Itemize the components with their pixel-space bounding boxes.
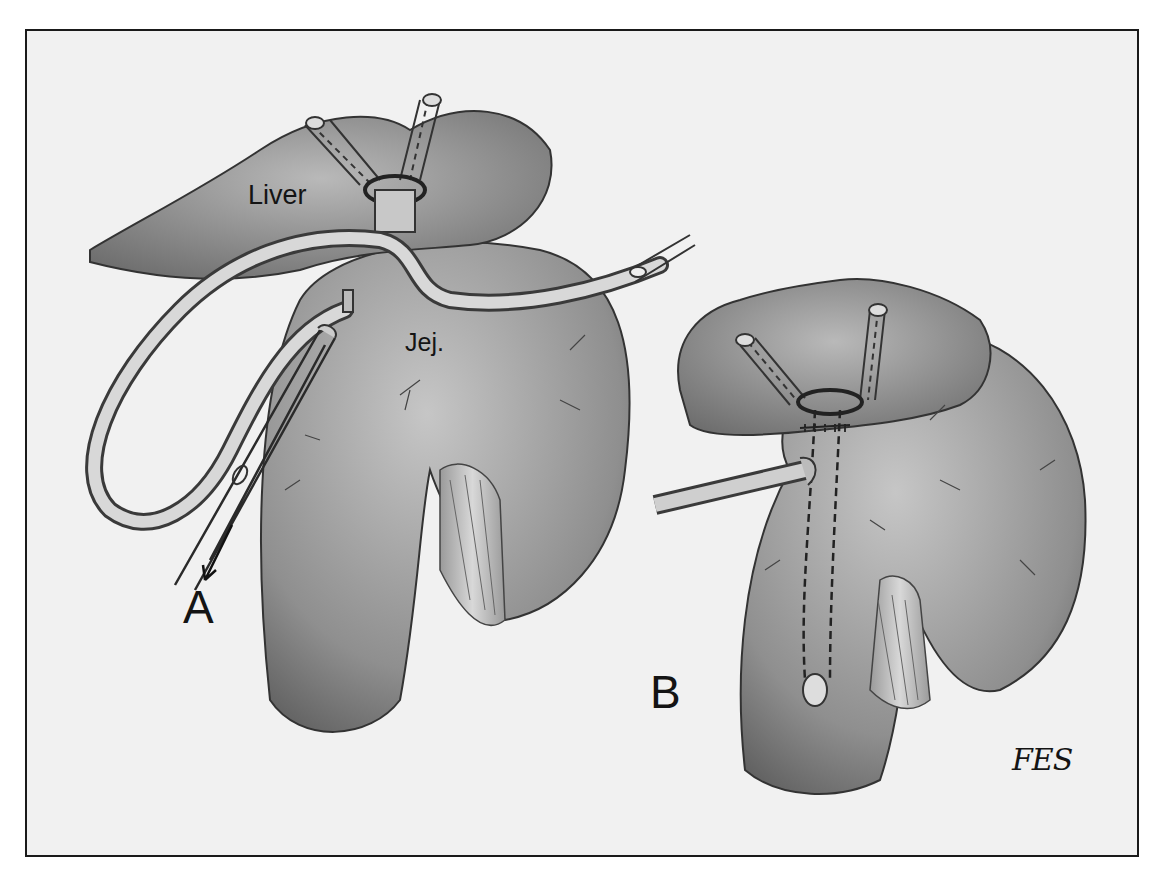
liver-label: Liver xyxy=(248,180,307,211)
mesentery-a xyxy=(440,464,505,625)
panel-b-label: B xyxy=(650,665,681,719)
panel-a-drawing xyxy=(90,94,695,732)
surgical-illustration xyxy=(0,0,1160,882)
panel-b-drawing xyxy=(655,279,1086,794)
withdrawal-arrow xyxy=(203,525,232,580)
panel-a-label: A xyxy=(183,580,214,634)
jejunum-label: Jej. xyxy=(405,328,444,357)
artist-signature: FES xyxy=(1012,742,1072,777)
